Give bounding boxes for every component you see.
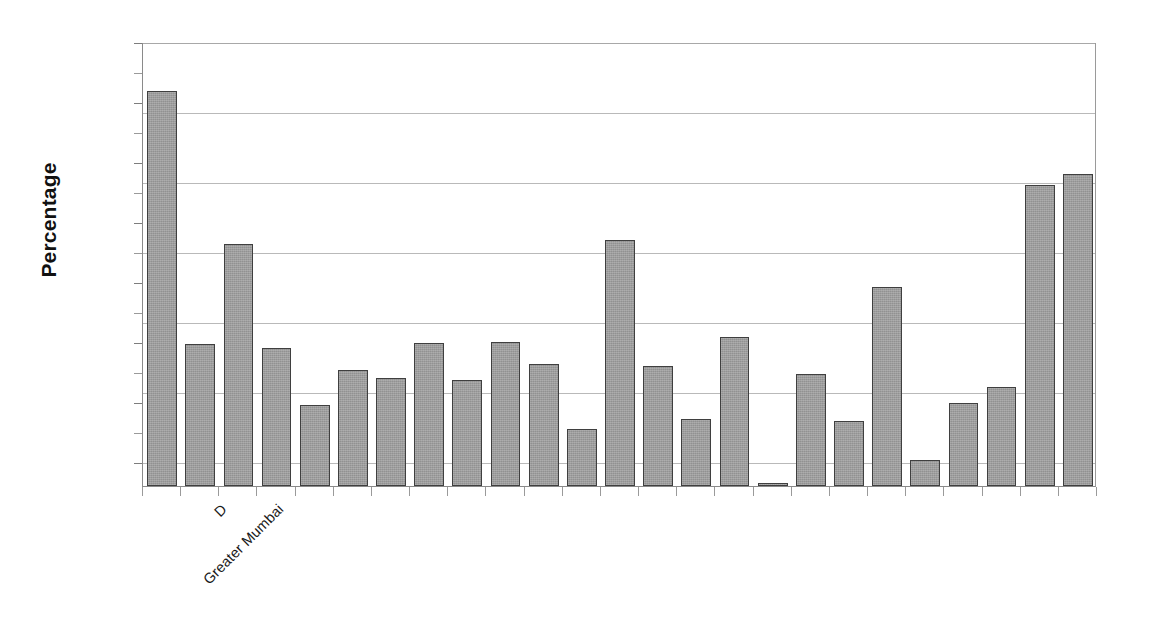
bar <box>910 460 940 486</box>
y-axis-tick <box>134 313 142 314</box>
bar <box>262 348 292 486</box>
bar <box>300 405 330 486</box>
bar <box>834 421 864 486</box>
x-axis-label: D <box>211 501 230 520</box>
plot-area <box>142 43 1096 487</box>
y-axis-tick <box>134 253 142 254</box>
y-axis-tick <box>134 433 142 434</box>
bar <box>605 240 635 486</box>
bar <box>949 403 979 486</box>
bar <box>147 91 177 486</box>
bar <box>987 387 1017 486</box>
bar <box>185 344 215 486</box>
bar <box>376 378 406 486</box>
y-axis-title-container: Percentage <box>0 0 130 500</box>
bar <box>681 419 711 486</box>
bar <box>224 244 254 486</box>
bar <box>643 366 673 486</box>
bars-layer <box>143 43 1095 486</box>
y-axis-title: Percentage <box>36 162 60 277</box>
bar-chart-figure: Percentage Greater MumbaiD <box>0 0 1153 629</box>
bar <box>1063 174 1093 486</box>
bar <box>414 343 444 486</box>
bar <box>452 380 482 486</box>
bar <box>491 342 521 486</box>
bar <box>872 287 902 486</box>
bar <box>796 374 826 486</box>
y-axis-tick <box>134 373 142 374</box>
y-axis-tick <box>134 133 142 134</box>
y-axis-tick <box>134 73 142 74</box>
bar <box>1025 185 1055 486</box>
x-axis-labels: Greater MumbaiD <box>0 487 1153 627</box>
y-axis-tick <box>134 193 142 194</box>
bar <box>529 364 559 486</box>
bar <box>720 337 750 486</box>
bar <box>567 429 597 486</box>
x-axis-label: Greater Mumbai <box>201 501 287 587</box>
bar <box>758 483 788 486</box>
bar <box>338 370 368 486</box>
